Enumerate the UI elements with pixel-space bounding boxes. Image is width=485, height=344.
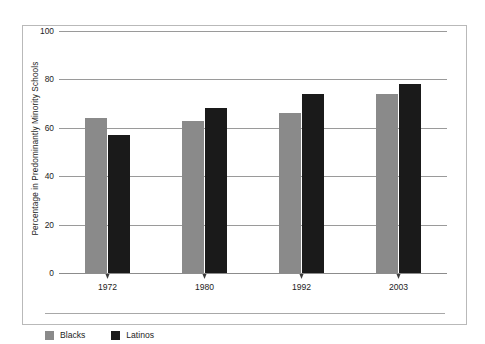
bar-blacks-1972[interactable] (85, 118, 107, 273)
bar-blacks-2003[interactable] (376, 94, 398, 273)
y-tick-label-60: 60 (45, 123, 54, 133)
x-tick-mark-1992 (299, 274, 303, 279)
x-tick-mark-1980 (202, 274, 206, 279)
x-tick-label-1972: 1972 (98, 282, 117, 292)
bar-group-1980 (182, 31, 227, 273)
x-tick-mark-1972 (105, 274, 109, 279)
x-tick-label-2003: 2003 (389, 282, 408, 292)
y-axis-spine (59, 31, 60, 273)
chart-figure-frame: Percentage in Predominantly Minority Sch… (22, 25, 467, 325)
y-tick-label-20: 20 (45, 220, 54, 230)
x-tick-label-1980: 1980 (195, 282, 214, 292)
bar-latinos-1972[interactable] (108, 135, 130, 273)
x-tick-mark-2003 (396, 274, 400, 279)
y-tick-label-80: 80 (45, 74, 54, 84)
y-axis-title: Percentage in Predominantly Minority Sch… (31, 19, 40, 279)
legend-swatch-blacks (45, 331, 54, 340)
legend-swatch-latinos (111, 331, 120, 340)
plot-area: 020406080100 (59, 31, 447, 273)
bar-latinos-1980[interactable] (205, 108, 227, 273)
bar-blacks-1980[interactable] (182, 121, 204, 273)
y-tick-label-40: 40 (45, 171, 54, 181)
y-tick-label-0: 0 (49, 268, 54, 278)
bar-blacks-1992[interactable] (279, 113, 301, 273)
bar-latinos-1992[interactable] (302, 94, 324, 273)
y-tick-label-100: 100 (40, 26, 54, 36)
legend-label-latinos: Latinos (126, 330, 154, 340)
x-axis-labels: 1972198019922003 (59, 273, 447, 299)
bar-latinos-2003[interactable] (399, 84, 421, 273)
legend-label-blacks: Blacks (60, 330, 85, 340)
x-tick-label-1992: 1992 (292, 282, 311, 292)
chart-legend: BlacksLatinos (45, 327, 154, 343)
legend-item-blacks[interactable]: Blacks (45, 330, 85, 340)
bar-group-1992 (279, 31, 324, 273)
bar-group-1972 (85, 31, 130, 273)
legend-item-latinos[interactable]: Latinos (111, 330, 154, 340)
bar-group-2003 (376, 31, 421, 273)
legend-divider (45, 313, 445, 314)
